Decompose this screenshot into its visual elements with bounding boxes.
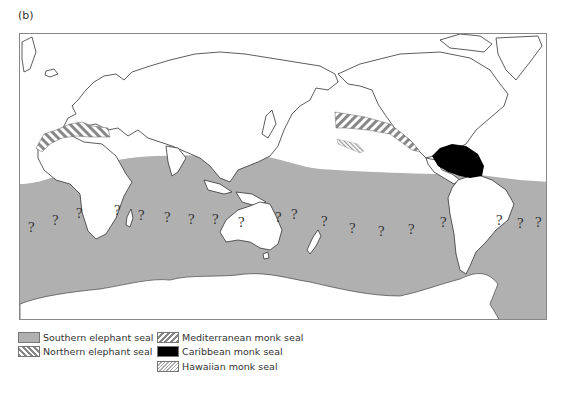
question-mark: ? <box>28 219 35 235</box>
question-mark: ? <box>188 211 195 227</box>
legend-item-northern-elephant-seal: Northern elephant seal <box>18 345 152 357</box>
question-mark: ? <box>535 214 542 230</box>
question-mark: ? <box>114 202 121 218</box>
question-mark: ? <box>321 213 328 229</box>
world-map: ??????????????????? <box>19 33 547 320</box>
question-mark: ? <box>164 209 171 225</box>
question-mark: ? <box>349 220 356 236</box>
swatch-fine-hatch <box>157 361 179 372</box>
swatch-solid-grey <box>18 332 40 343</box>
question-mark: ? <box>291 206 298 222</box>
question-mark: ? <box>378 223 385 239</box>
range-hawaiian-monk-seal <box>337 139 364 153</box>
question-mark: ? <box>238 214 245 230</box>
question-mark: ? <box>138 207 145 223</box>
question-mark: ? <box>52 212 59 228</box>
panel-label: (b) <box>18 9 34 22</box>
question-mark: ? <box>275 209 282 225</box>
question-mark: ? <box>212 211 219 227</box>
question-mark: ? <box>76 205 83 221</box>
swatch-solid-black <box>157 346 179 357</box>
swatch-diagonal-hatch <box>18 346 40 357</box>
question-mark: ? <box>517 215 524 231</box>
legend-item-caribbean-monk-seal: Caribbean monk seal <box>157 345 283 357</box>
swatch-diagonal-hatch-up <box>157 332 179 343</box>
legend-item-hawaiian-monk-seal: Hawaiian monk seal <box>157 360 278 372</box>
question-mark: ? <box>408 221 415 237</box>
question-mark: ? <box>440 214 447 230</box>
legend-item-southern-elephant-seal: Southern elephant seal <box>18 331 153 343</box>
question-mark: ? <box>496 212 503 228</box>
legend-item-mediterranean-monk-seal: Mediterranean monk seal <box>157 331 303 343</box>
